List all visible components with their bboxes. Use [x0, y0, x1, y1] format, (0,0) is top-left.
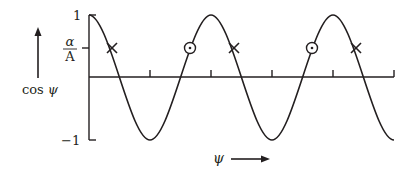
cross-marker-icon — [229, 43, 239, 53]
x-axis-label: ψ — [213, 150, 225, 166]
threshold-denominator: A — [64, 49, 75, 64]
y-axis-label: cosψ — [22, 82, 59, 97]
cross-markers — [107, 43, 361, 53]
y-tick-label-minus-1: −1 — [61, 133, 80, 148]
y-direction-arrow — [35, 27, 42, 78]
cross-marker-icon — [107, 43, 117, 53]
threshold-fraction-label: α A — [63, 34, 77, 64]
cosine-diagram: cosψ 1 −1 α A ψ — [0, 0, 415, 171]
circled-dot-marker-icon — [307, 43, 318, 54]
y-tick-label-1: 1 — [73, 8, 81, 23]
cross-marker-icon — [351, 43, 361, 53]
threshold-numerator: α — [66, 34, 75, 49]
circled-dot-marker-icon — [185, 43, 196, 54]
dot-markers — [185, 43, 318, 54]
x-direction-arrow — [231, 156, 270, 163]
